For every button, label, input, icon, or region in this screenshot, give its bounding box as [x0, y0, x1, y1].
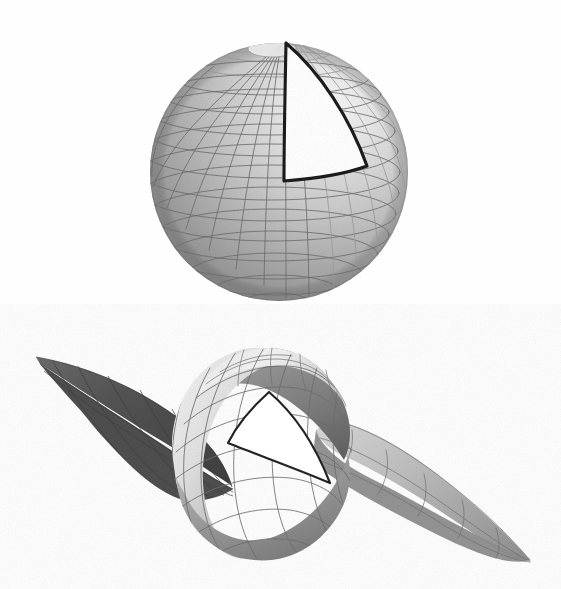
figure-canvas	[0, 0, 561, 589]
figure-svg	[0, 0, 561, 589]
paper-grain-top	[145, 35, 420, 315]
